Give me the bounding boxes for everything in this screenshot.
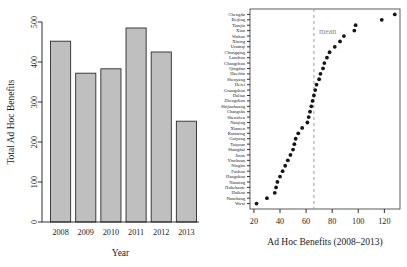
- x-axis-tick-label: 2011: [128, 228, 144, 237]
- data-point[interactable]: [312, 94, 316, 98]
- x-axis-title: Ad Hoc Benefits (2008–2013): [267, 237, 382, 248]
- data-point[interactable]: [321, 67, 325, 71]
- city-label: Changchun: [224, 61, 246, 66]
- city-label: Shenyang: [227, 77, 246, 82]
- city-label: Xiamen: [230, 126, 245, 131]
- data-point[interactable]: [352, 29, 356, 33]
- city-label: Xian: [236, 28, 246, 33]
- data-point[interactable]: [292, 142, 296, 146]
- data-point[interactable]: [317, 77, 321, 81]
- data-point[interactable]: [307, 115, 311, 119]
- city-label: Tianjin: [232, 23, 246, 28]
- y-axis-tick-label: 100: [30, 176, 39, 188]
- dot-plot-svg: meanChengduBeijingTianjinXianWuhanXining…: [204, 0, 407, 267]
- bar-chart-panel: 0100200300400500Total Ad Hoc Benefits200…: [0, 0, 204, 267]
- data-point[interactable]: [286, 158, 290, 162]
- data-point[interactable]: [300, 126, 304, 130]
- bar[interactable]: [126, 28, 146, 222]
- city-label: Hefei: [235, 82, 246, 87]
- data-point[interactable]: [255, 202, 259, 206]
- city-label: Nanchang: [226, 196, 245, 201]
- x-axis-tick-label: 60: [302, 217, 310, 226]
- city-label: Urumqi: [231, 44, 246, 49]
- bar[interactable]: [76, 73, 96, 222]
- city-label: Wuhan: [232, 34, 246, 39]
- bar[interactable]: [176, 121, 196, 222]
- city-label: Yinchuan: [227, 158, 245, 163]
- city-label: Nanjing: [230, 120, 246, 125]
- data-point[interactable]: [319, 72, 323, 76]
- y-axis-tick-label: 200: [30, 136, 39, 148]
- city-label: Chengdu: [228, 12, 245, 17]
- city-label: Changsha: [227, 109, 245, 114]
- x-axis-tick-label: 2008: [52, 228, 68, 237]
- data-point[interactable]: [338, 40, 342, 44]
- data-point[interactable]: [291, 148, 295, 152]
- x-axis-title: Year: [112, 248, 130, 258]
- data-point[interactable]: [296, 131, 300, 135]
- bar-chart-svg: 0100200300400500Total Ad Hoc Benefits200…: [0, 0, 204, 267]
- x-axis-tick-label: 2012: [153, 228, 169, 237]
- city-label: Nanning: [229, 180, 246, 185]
- data-point[interactable]: [265, 196, 269, 200]
- x-axis-tick-label: 80: [328, 217, 336, 226]
- x-axis-tick-label: 2013: [178, 228, 194, 237]
- data-point[interactable]: [278, 175, 282, 179]
- city-label: Wuxi: [235, 201, 246, 206]
- data-point[interactable]: [283, 164, 287, 168]
- data-point[interactable]: [322, 61, 326, 65]
- data-point[interactable]: [305, 121, 309, 125]
- city-label: Haikou: [231, 190, 245, 195]
- x-axis-tick-label: 100: [352, 217, 364, 226]
- y-axis-title: Total Ad Hoc Benefits: [6, 79, 16, 164]
- bar[interactable]: [51, 41, 71, 222]
- bar[interactable]: [101, 69, 121, 222]
- data-point[interactable]: [308, 110, 312, 114]
- data-point[interactable]: [328, 50, 332, 54]
- city-label: Jinan: [235, 153, 245, 158]
- data-point[interactable]: [313, 88, 317, 92]
- bar[interactable]: [151, 52, 171, 222]
- data-point[interactable]: [380, 18, 384, 22]
- city-label: Chongqing: [225, 50, 246, 55]
- data-point[interactable]: [393, 13, 397, 17]
- city-label: Lanzhou: [229, 55, 246, 60]
- figure-root: 0100200300400500Total Ad Hoc Benefits200…: [0, 0, 407, 267]
- data-point[interactable]: [311, 99, 315, 103]
- city-label: Haerbin: [230, 71, 245, 76]
- city-label: Dalian: [233, 93, 246, 98]
- data-point[interactable]: [273, 191, 277, 195]
- y-axis-tick-label: 400: [30, 56, 39, 68]
- data-point[interactable]: [281, 169, 285, 173]
- city-label: Guangzhou: [224, 88, 246, 93]
- data-point[interactable]: [354, 23, 358, 27]
- data-point[interactable]: [275, 180, 279, 184]
- x-axis-tick-label: 120: [378, 217, 390, 226]
- data-point[interactable]: [315, 83, 319, 87]
- city-label: Hangzhou: [226, 174, 246, 179]
- city-label: Guiyang: [229, 136, 246, 141]
- city-label: Qingdao: [229, 66, 246, 71]
- x-axis-tick-label: 20: [250, 217, 258, 226]
- data-point[interactable]: [342, 34, 346, 38]
- city-label: Xining: [232, 39, 245, 44]
- city-label: Taiyuan: [230, 142, 245, 147]
- city-label: Fuzhou: [231, 169, 245, 174]
- data-point[interactable]: [325, 56, 329, 60]
- city-label: Zhengzhou: [224, 98, 245, 103]
- data-point[interactable]: [294, 137, 298, 141]
- data-point[interactable]: [274, 185, 278, 189]
- y-axis-tick-label: 300: [30, 96, 39, 108]
- mean-line-label: mean: [319, 27, 336, 36]
- data-point[interactable]: [289, 153, 293, 157]
- x-axis-tick-label: 2010: [103, 228, 119, 237]
- data-point[interactable]: [309, 104, 313, 108]
- city-label: Beijing: [231, 17, 245, 22]
- x-axis-tick-label: 2009: [78, 228, 94, 237]
- city-label: Ningbo: [231, 163, 245, 168]
- data-point[interactable]: [333, 45, 337, 49]
- city-label: Kunming: [228, 131, 246, 136]
- y-axis-tick-label: 0: [30, 220, 39, 224]
- city-label: Huhehaote: [225, 185, 245, 190]
- x-axis-tick-label: 40: [276, 217, 284, 226]
